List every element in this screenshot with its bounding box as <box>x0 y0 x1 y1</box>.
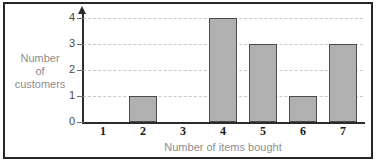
bar <box>129 96 158 122</box>
x-axis-title: Number of items bought <box>83 141 363 153</box>
y-tick-label: 4 <box>55 12 75 23</box>
y-tick-mark <box>77 18 84 19</box>
y-tick-label: 1 <box>55 90 75 101</box>
bar <box>249 44 278 122</box>
x-tick-label: 2 <box>123 125 163 138</box>
bar-chart: Number of customers Number of items boug… <box>5 4 371 157</box>
y-tick-mark <box>77 44 84 45</box>
y-axis-line <box>82 12 84 123</box>
bar <box>209 18 238 122</box>
y-tick-label: 2 <box>55 64 75 75</box>
bar <box>289 96 318 122</box>
plot-area <box>83 18 363 122</box>
y-axis-arrow-icon <box>78 6 86 14</box>
x-tick-label: 5 <box>243 125 283 138</box>
x-tick-label: 1 <box>83 125 123 138</box>
x-tick-label: 7 <box>323 125 363 138</box>
y-tick-label: 0 <box>55 116 75 127</box>
x-tick-label: 3 <box>163 125 203 138</box>
chart-frame: Number of customers Number of items boug… <box>3 2 373 159</box>
y-tick-mark <box>77 122 84 123</box>
bar <box>329 44 358 122</box>
y-tick-label: 3 <box>55 38 75 49</box>
x-tick-label: 6 <box>283 125 323 138</box>
x-tick-label: 4 <box>203 125 243 138</box>
y-tick-mark <box>77 70 84 71</box>
y-tick-mark <box>77 96 84 97</box>
